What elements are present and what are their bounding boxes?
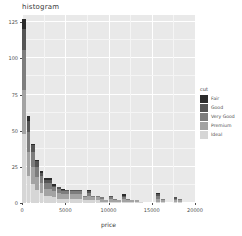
x-tick-mark [195, 203, 196, 205]
y-tick-mark [20, 22, 22, 23]
bar-segment [40, 173, 44, 176]
chart-root: histogram 0255075100125 0500010000150002… [0, 0, 242, 236]
bar-segment [31, 145, 35, 152]
bar-segment [156, 199, 160, 202]
legend-swatch [200, 95, 208, 103]
x-tick-label: 15000 [138, 207, 166, 213]
bar-segment [174, 200, 178, 201]
bar-segment [48, 180, 52, 183]
histogram-bar [100, 197, 104, 203]
histogram-bar [135, 200, 139, 203]
bar-segment [87, 196, 91, 200]
legend: cut FairGoodVery GoodPremiumIdeal [200, 86, 242, 139]
histogram-bar [130, 200, 134, 203]
bar-segment [178, 199, 182, 200]
legend-key [200, 131, 208, 139]
y-tick-label: 50 [12, 128, 18, 134]
bar-segment [109, 199, 113, 202]
bar-segment [35, 160, 39, 161]
bar-segment [31, 184, 35, 203]
histogram-bar [87, 190, 91, 203]
bar-segment [122, 202, 126, 203]
bar-segment [31, 144, 35, 145]
bar-segment [91, 197, 95, 200]
bar-segment [31, 167, 35, 184]
bar-segment [22, 29, 26, 49]
y-tick-label: 0 [15, 200, 18, 206]
histogram-bar [65, 190, 69, 203]
bar-segment [135, 202, 139, 203]
bar-segment [174, 199, 178, 200]
legend-swatch [200, 131, 208, 139]
legend-key [200, 104, 208, 112]
bar-segment [122, 194, 126, 195]
bar-segment [109, 197, 113, 198]
bar-segment [52, 197, 56, 203]
bar-segment [122, 199, 126, 202]
bar-segment [27, 132, 31, 152]
legend-item: Ideal [200, 130, 242, 139]
legend-item: Good [200, 103, 242, 112]
bar-segment [130, 202, 134, 203]
bar-segment [178, 200, 182, 201]
bar-segment [161, 200, 165, 201]
x-tick-label: 0 [8, 207, 36, 213]
bar-segment [91, 200, 95, 203]
bar-segment [48, 183, 52, 189]
bar-segment [135, 200, 139, 201]
bar-segment [100, 202, 104, 203]
legend-swatch [200, 104, 208, 112]
y-tick-mark [20, 95, 22, 96]
y-tick-mark [20, 58, 22, 59]
bar-segment [27, 116, 31, 120]
legend-title: cut [200, 86, 242, 92]
bar-segment [48, 189, 52, 196]
x-tick-mark [152, 203, 153, 205]
histogram-bar [109, 196, 113, 203]
histogram-bar [44, 178, 48, 203]
histogram-bar [122, 194, 126, 203]
page-title: histogram [22, 3, 59, 11]
bar-segment [117, 200, 121, 201]
bar-segment [113, 199, 117, 200]
legend-swatch [200, 113, 208, 121]
bar-segment [113, 202, 117, 203]
bar-segment [35, 177, 39, 190]
bar-segment [70, 191, 74, 194]
plot-panel [22, 15, 195, 203]
bar-segment [48, 196, 52, 203]
bar-segment [22, 19, 26, 29]
bar-segment [65, 191, 69, 194]
x-tick-label: 5000 [51, 207, 79, 213]
bar-segment [44, 180, 48, 183]
bar-segment [174, 197, 178, 198]
x-tick-mark [65, 203, 66, 205]
bar-segment [96, 200, 100, 203]
bar-segment [70, 194, 74, 198]
bar-segment [109, 196, 113, 197]
bar-segment [57, 189, 61, 193]
bar-segment [52, 187, 56, 191]
bar-segment [87, 190, 91, 191]
bar-segment [117, 202, 121, 203]
bar-segment [74, 191, 78, 194]
x-tick-mark [109, 203, 110, 205]
histogram-bar [117, 200, 121, 203]
bar-segment [40, 171, 44, 172]
bar-segment [156, 193, 160, 194]
bar-segment [156, 194, 160, 195]
x-tick-label: 20000 [181, 207, 209, 213]
bar-segment [57, 199, 61, 203]
bar-segment [35, 167, 39, 177]
bar-segment [65, 194, 69, 198]
bar-segment [27, 152, 31, 175]
bar-segment [178, 202, 182, 203]
legend-key [200, 122, 208, 130]
bar-segment [78, 191, 82, 194]
y-tick-mark [20, 131, 22, 132]
bar-segment [44, 183, 48, 189]
bar-segment [130, 200, 134, 201]
y-tick-label: 125 [8, 19, 18, 25]
bar-segment [161, 199, 165, 200]
histogram-bar [57, 187, 61, 203]
